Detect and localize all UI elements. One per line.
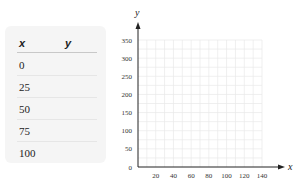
x-tick-label: 100 — [221, 172, 232, 180]
y-tick-label: 100 — [122, 127, 133, 135]
y-tick-label: 150 — [122, 109, 133, 117]
y-tick-label: 50 — [125, 145, 133, 153]
y-tick-label: 200 — [122, 91, 133, 99]
y-tick-label: 0 — [129, 164, 133, 172]
y-tick-label: 250 — [122, 73, 133, 81]
x-tick-label: 80 — [205, 172, 213, 180]
x-tick-label: 20 — [152, 172, 160, 180]
grid — [138, 40, 262, 167]
x-tick-label: 40 — [170, 172, 178, 180]
coordinate-grid-chart: xy 2040608010012014005010015020025030035… — [0, 0, 294, 185]
x-tick-label: 140 — [257, 172, 268, 180]
y-tick-label: 350 — [122, 37, 133, 45]
x-axis-arrow — [278, 165, 285, 170]
y-axis-arrow — [136, 22, 141, 29]
x-tick-label: 120 — [239, 172, 250, 180]
y-tick-label: 300 — [122, 55, 133, 63]
x-axis-label: x — [287, 161, 293, 172]
y-axis-label: y — [134, 7, 140, 18]
axes: xy — [134, 7, 293, 172]
x-tick-label: 60 — [188, 172, 196, 180]
